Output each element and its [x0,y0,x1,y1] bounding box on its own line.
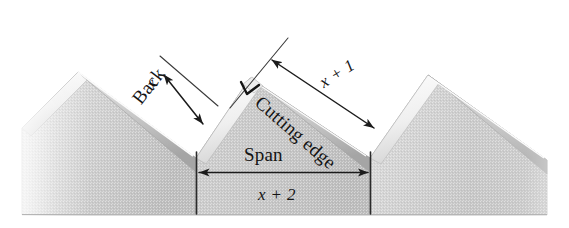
dimension-arrow-back [164,75,203,124]
saw-tooth-diagram: Back Cutting edge Span x x + 1 x + 2 [0,0,569,228]
left-fade-overlay [10,60,90,218]
label-span: Span [244,145,283,164]
dimension-label-span: x + 2 [258,186,296,203]
right-fade-overlay [470,60,569,218]
